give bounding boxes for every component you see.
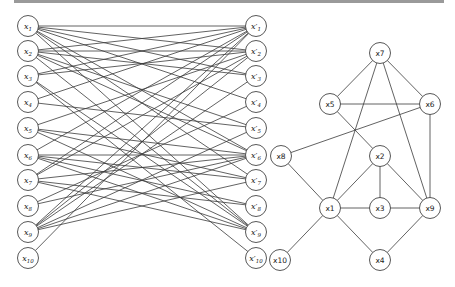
right-node-y2: x′2 [246,41,267,62]
graph-node-x10: x10 [270,250,291,271]
node-label: x5 [325,100,334,109]
node-label: x10 [273,256,287,265]
bipartite-edge-x10-y1 [28,26,256,258]
node-label: x8 [276,152,285,161]
right-node-y5: x′5 [246,118,267,139]
graph-node-x3: x3 [370,198,391,219]
left-node-x3: x3 [18,66,39,87]
left-node-x8: x8 [18,196,39,217]
bipartite-edge-x7-y8 [28,180,256,206]
left-node-x9: x9 [18,222,39,243]
left-node-x6: x6 [18,145,39,166]
right-node-y7: x′7 [246,170,267,191]
node-label: x9 [425,204,434,213]
graph-node-x7: x7 [370,43,391,64]
left-node-x7: x7 [18,170,39,191]
graph-edge-x6-x8 [281,104,430,156]
graph-edge-x7-x9 [380,53,430,208]
node-label: x6 [425,100,434,109]
node-label: x2 [375,152,384,161]
graph-node-x8: x8 [271,146,292,167]
right-node-y4: x′4 [246,92,267,113]
right-node-y1: x′1 [246,16,267,37]
left-node-x2: x2 [18,41,39,62]
bipartite-edge-x7-y2 [28,51,256,180]
right-node-y3: x′3 [246,66,267,87]
graph-edges [280,53,430,260]
graph-figure: x1x2x3x4x5x6x7x8x9x10x′1x′2x′3x′4x′5x′6x… [0,0,455,287]
graph-node-x1: x1 [320,198,341,219]
right-node-y6: x′6 [246,145,267,166]
graph-node-x6: x6 [420,94,441,115]
left-node-x5: x5 [18,118,39,139]
node-label: x7 [375,49,384,58]
right-node-y10: x′10 [246,248,267,269]
graph-node-x2: x2 [370,146,391,167]
graph-nodes: x7x5x6x8x2x1x3x9x10x4 [270,43,441,271]
node-label: x3 [375,204,384,213]
graph-node-x9: x9 [420,198,441,219]
right-node-y9: x′9 [246,222,267,243]
node-label: x1 [325,204,334,213]
right-node-y8: x′8 [246,196,267,217]
bipartite-edge-x4-y5 [28,102,256,128]
graph-node-x4: x4 [370,250,391,271]
node-label: x4 [375,256,384,265]
bipartite-edges [28,26,256,258]
left-node-x1: x1 [18,16,39,37]
graph-node-x5: x5 [320,94,341,115]
left-node-x10: x10 [18,248,39,269]
left-node-x4: x4 [18,92,39,113]
